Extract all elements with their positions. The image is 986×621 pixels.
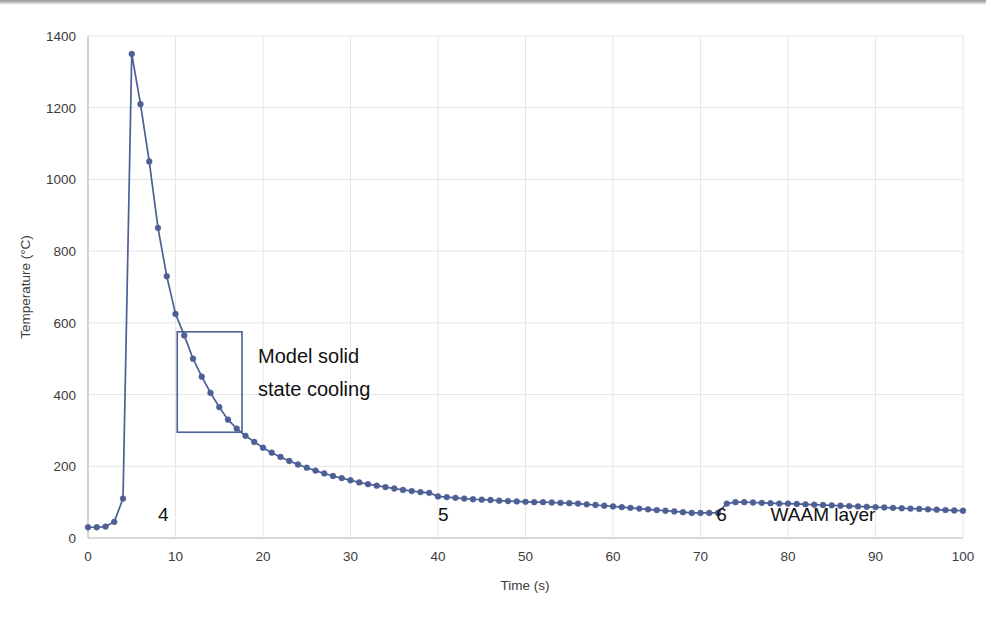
data-point — [435, 494, 441, 500]
data-point — [138, 101, 144, 107]
waam-layer-label: WAAM layer — [771, 504, 877, 525]
annotation-box-group — [177, 332, 242, 432]
x-tick-0: 0 — [84, 549, 92, 564]
x-axis-tick-labels: 0102030405060708090100 — [84, 549, 974, 564]
data-point — [313, 468, 319, 474]
data-point — [916, 506, 922, 512]
data-point — [908, 506, 914, 512]
data-point — [199, 374, 205, 380]
y-tick-0: 0 — [68, 531, 76, 546]
data-point — [103, 524, 109, 530]
data-point — [523, 499, 529, 505]
data-point — [628, 505, 634, 511]
x-tick-40: 40 — [430, 549, 445, 564]
data-point — [706, 510, 712, 516]
data-point — [251, 439, 257, 445]
data-point — [890, 505, 896, 511]
data-point — [418, 489, 424, 495]
data-point — [243, 433, 249, 439]
data-point — [934, 507, 940, 513]
data-point — [356, 480, 362, 486]
model-solid-state-cooling-box — [177, 332, 242, 432]
data-point — [566, 500, 572, 506]
data-point — [409, 488, 415, 494]
data-point — [374, 483, 380, 489]
data-point — [461, 496, 467, 502]
chart-page: 0200400600800100012001400 01020304050607… — [0, 0, 986, 621]
data-point — [733, 499, 739, 505]
data-point — [339, 475, 345, 481]
y-tick-1400: 1400 — [46, 29, 76, 44]
data-point — [619, 504, 625, 510]
data-point — [645, 506, 651, 512]
x-tick-10: 10 — [168, 549, 183, 564]
data-point — [951, 507, 957, 513]
data-point — [514, 499, 520, 505]
data-point — [278, 454, 284, 460]
data-point — [216, 404, 222, 410]
data-point — [155, 225, 161, 231]
data-point — [260, 445, 266, 451]
data-point — [663, 508, 669, 514]
x-tick-90: 90 — [868, 549, 883, 564]
data-point — [286, 458, 292, 464]
data-point — [496, 498, 502, 504]
data-point — [671, 509, 677, 515]
annotation-text-line2: state cooling — [258, 378, 370, 400]
data-point — [295, 462, 301, 468]
data-point — [383, 484, 389, 490]
x-tick-50: 50 — [518, 549, 533, 564]
data-point — [593, 502, 599, 508]
data-point — [960, 508, 966, 514]
data-point — [304, 465, 310, 471]
data-point — [680, 509, 686, 515]
data-point — [173, 311, 179, 317]
data-point — [741, 499, 747, 505]
data-point — [549, 500, 555, 506]
data-point — [505, 498, 511, 504]
data-point — [899, 505, 905, 511]
data-point — [698, 510, 704, 516]
data-point — [321, 471, 327, 477]
data-point — [444, 494, 450, 500]
data-point — [759, 500, 765, 506]
data-point — [400, 487, 406, 493]
data-point — [584, 501, 590, 507]
data-point — [208, 390, 214, 396]
data-point — [470, 496, 476, 502]
y-axis-tick-labels: 0200400600800100012001400 — [46, 29, 76, 546]
data-point — [881, 505, 887, 511]
data-point — [269, 450, 275, 456]
layer-5-label: 5 — [438, 504, 449, 525]
y-tick-400: 400 — [53, 388, 76, 403]
y-tick-600: 600 — [53, 316, 76, 331]
data-point — [479, 497, 485, 503]
data-point — [943, 507, 949, 513]
data-point — [558, 500, 564, 506]
data-point — [120, 496, 126, 502]
x-tick-70: 70 — [693, 549, 708, 564]
data-point — [636, 506, 642, 512]
x-tick-20: 20 — [255, 549, 270, 564]
data-point — [654, 507, 660, 513]
y-axis-title: Temperature (°C) — [18, 235, 33, 339]
data-point — [610, 504, 616, 510]
x-tick-30: 30 — [343, 549, 358, 564]
data-point — [453, 495, 459, 501]
data-point — [225, 417, 231, 423]
data-point — [190, 356, 196, 362]
data-point — [365, 481, 371, 487]
data-point — [488, 497, 494, 503]
y-tick-1200: 1200 — [46, 101, 76, 116]
x-tick-60: 60 — [605, 549, 620, 564]
data-point — [181, 333, 187, 339]
data-point — [575, 501, 581, 507]
data-point — [85, 524, 91, 530]
data-point — [601, 503, 607, 509]
data-point — [426, 490, 432, 496]
data-point — [330, 473, 336, 479]
data-point — [164, 273, 170, 279]
plot-grid — [88, 36, 963, 538]
data-point — [689, 510, 695, 516]
data-point — [234, 426, 240, 432]
